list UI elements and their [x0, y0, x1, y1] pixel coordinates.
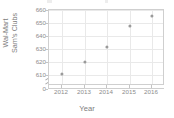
gridline-2013	[85, 10, 86, 84]
y-axis-title: Wal-Mart Sam's Clubs	[0, 0, 23, 71]
cropped-artifact-right	[105, 0, 108, 3]
gridline-650	[49, 23, 163, 24]
gridline-2015	[130, 10, 131, 84]
y-tick-label-620: 620	[30, 59, 46, 65]
x-tick-label-2012: 2012	[49, 89, 73, 95]
y-tick-label-650: 650	[30, 20, 46, 26]
gridline-660	[49, 10, 163, 11]
x-tick-label-2014: 2014	[94, 89, 118, 95]
gridline-2016	[152, 10, 153, 84]
y-axis-tick-labels: 660 650 640 630 620 610 0	[28, 0, 46, 118]
data-point-2015	[128, 24, 131, 27]
scatter-chart: Wal-Mart Sam's Clubs 660 650 640 630 620…	[0, 0, 174, 118]
plot-area	[48, 9, 164, 85]
cropped-artifact-left	[47, 0, 52, 3]
x-tick-label-2013: 2013	[72, 89, 96, 95]
data-point-2016	[150, 14, 153, 17]
x-tick-label-2015: 2015	[117, 89, 141, 95]
y-tick-label-0: 0	[30, 86, 46, 92]
gridline-620	[49, 62, 163, 63]
gridline-640	[49, 36, 163, 37]
y-tick-label-630: 630	[30, 46, 46, 52]
y-tick-label-640: 640	[30, 33, 46, 39]
x-axis-title: Year	[0, 104, 174, 113]
y-axis-title-line-2: Sam's Clubs	[11, 13, 20, 53]
x-tick-label-2016: 2016	[139, 89, 163, 95]
y-tick-label-660: 660	[30, 7, 46, 13]
data-point-2013	[83, 60, 86, 63]
data-point-2014	[105, 45, 108, 48]
gridline-610	[49, 75, 163, 76]
x-axis-tick-labels: 2012 2013 2014 2015 2016	[48, 89, 164, 99]
gridline-630	[49, 49, 163, 50]
